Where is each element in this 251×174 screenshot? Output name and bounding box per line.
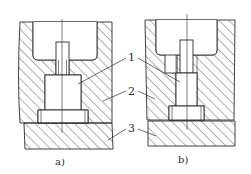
die-assembly-diagram: a) b) 1 2 3 [0, 0, 251, 174]
base-plate-b [148, 121, 235, 146]
base-plate-a [24, 123, 113, 149]
callout-2: 2 [128, 85, 135, 98]
punch-stem-a [56, 42, 69, 75]
caption-a: a) [55, 156, 65, 167]
callout-3: 3 [128, 122, 135, 135]
punch-stem-b [180, 40, 193, 73]
punch-body-a [45, 75, 81, 110]
callout-1: 1 [128, 51, 135, 64]
punch-flange-b [169, 106, 204, 120]
punch-body-b [176, 73, 197, 106]
caption-b: b) [178, 154, 188, 165]
panel-a: a) [19, 19, 127, 167]
punch-flange-a [38, 110, 88, 123]
panel-b: b) [138, 14, 235, 165]
